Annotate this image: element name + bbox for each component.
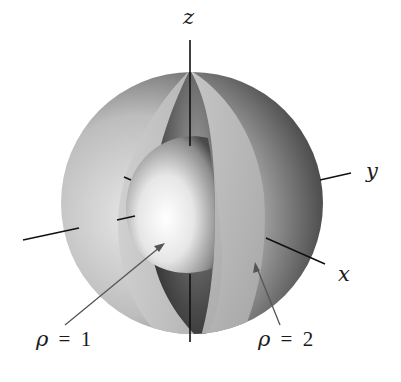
rho2-symbol: ρ (257, 327, 271, 351)
x-axis-label: x (338, 262, 350, 286)
z-axis-label: z (182, 5, 195, 29)
rho2-label: ρ = 2 (257, 327, 313, 351)
spheres-diagram: z y x ρ = 1 ρ = 2 (0, 0, 401, 382)
rho1-equals: = (59, 327, 71, 351)
y-axis-label: y (365, 159, 379, 183)
rho2-equals: = (281, 327, 293, 351)
rho2-value: 2 (303, 327, 314, 351)
rho1-symbol: ρ (35, 327, 49, 351)
rho1-label: ρ = 1 (35, 327, 91, 351)
rho1-value: 1 (81, 327, 92, 351)
y-axis-right (320, 173, 351, 180)
